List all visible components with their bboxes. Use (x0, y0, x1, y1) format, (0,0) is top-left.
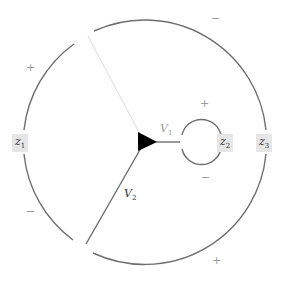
label-v1: V1 (160, 123, 172, 137)
contour-diagram (0, 0, 289, 283)
sign-outer-bottom-right: + (212, 255, 221, 266)
label-z3: z3 (256, 134, 272, 152)
outer-arc-upper-left (24, 44, 74, 130)
outer-arc-lower-left (24, 154, 73, 240)
label-v2: V2 (124, 188, 136, 202)
label-z2: z2 (217, 134, 233, 152)
inner-arc-top (182, 119, 221, 135)
vertex-triangle-icon (138, 132, 157, 151)
sign-outer-lower-left: − (26, 206, 35, 217)
sign-outer-upper-left: + (26, 62, 35, 73)
label-z1: z1 (12, 134, 28, 152)
sign-outer-top-right: − (211, 13, 220, 24)
faint-branch-line (88, 36, 140, 134)
sign-inner-bottom: − (201, 172, 210, 183)
sign-inner-top: + (200, 98, 209, 109)
outer-arc-top-right (94, 20, 266, 130)
outer-arc-bottom-right (93, 154, 266, 264)
inner-arc-bottom (182, 149, 221, 165)
